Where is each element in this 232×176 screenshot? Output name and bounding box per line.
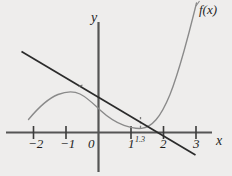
x-annotation-label-1-3: 1.3 — [135, 136, 145, 144]
x-tick-label-2: 2 — [160, 137, 167, 150]
x-tick-label-minus2: −2 — [28, 137, 43, 150]
figure-canvas: y x f(x) 0 −2 −1 1 2 3 1.3 — [0, 0, 232, 176]
origin-label: 0 — [88, 137, 95, 150]
x-tick-label-3: 3 — [193, 137, 200, 150]
x-axis-label: x — [216, 134, 222, 148]
function-curve — [29, 3, 197, 128]
y-axis-label: y — [91, 11, 97, 25]
curve-label: f(x) — [199, 3, 217, 16]
secant-line — [22, 52, 196, 156]
x-tick-label-1: 1 — [128, 137, 135, 150]
x-tick-label-minus1: −1 — [60, 137, 75, 150]
